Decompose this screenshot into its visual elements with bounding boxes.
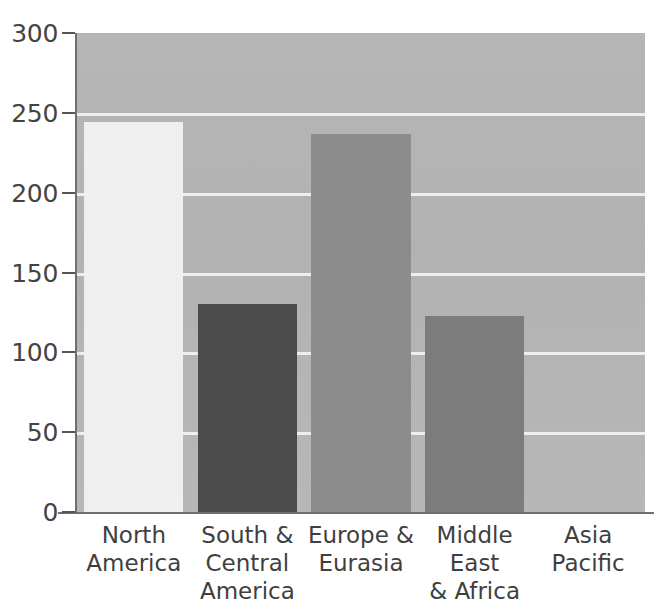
x-axis-category-label: North America xyxy=(77,521,191,609)
x-axis-category-label: Europe & Eurasia xyxy=(304,521,418,609)
x-axis-category-label: South & Central America xyxy=(191,521,305,609)
bar xyxy=(311,134,410,512)
y-axis-tick-mark xyxy=(62,112,75,114)
y-axis-tick-mark xyxy=(62,351,75,353)
y-axis-tick-label: 200 xyxy=(11,180,58,205)
y-axis-tick-label: 250 xyxy=(11,100,58,125)
y-axis-tick-label: 100 xyxy=(11,340,58,365)
bar xyxy=(84,122,183,512)
bar xyxy=(425,316,524,512)
y-axis-tick-mark xyxy=(62,32,75,34)
bars-group xyxy=(77,33,645,512)
y-axis-tick-label: 0 xyxy=(42,500,58,525)
y-axis-tick-label: 300 xyxy=(11,21,58,46)
x-axis-category-labels: North AmericaSouth & Central AmericaEuro… xyxy=(77,521,645,609)
chart-title xyxy=(0,2,654,16)
x-axis-line xyxy=(58,512,654,514)
plot-area xyxy=(77,33,645,512)
y-axis-tick-label: 150 xyxy=(11,260,58,285)
y-axis-tick-mark xyxy=(62,272,75,274)
x-axis-category-label: Middle East & Africa xyxy=(418,521,532,609)
y-axis-tick-mark xyxy=(62,431,75,433)
y-axis-tick-mark xyxy=(62,511,75,513)
bar xyxy=(198,304,297,512)
y-axis-tick-label: 50 xyxy=(27,420,58,445)
y-axis: 050100150200250300 xyxy=(0,0,58,611)
x-axis-category-label: Asia Pacific xyxy=(531,521,645,609)
bar-chart: 050100150200250300 North AmericaSouth & … xyxy=(0,0,654,611)
y-axis-tick-mark xyxy=(62,192,75,194)
